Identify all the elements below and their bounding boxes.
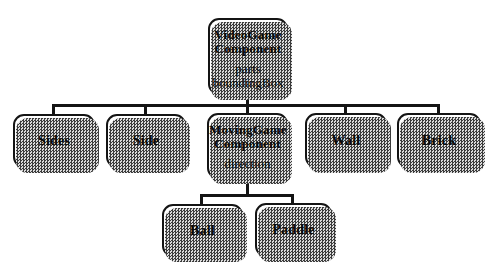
- node-title: VideoGame Component: [210, 28, 286, 55]
- uml-class-diagram: VideoGame Component parts boundingBox Si…: [0, 0, 490, 276]
- connector-row3-hline: [200, 194, 294, 197]
- node-brick: Brick: [397, 113, 481, 168]
- node-paddle: Paddle: [255, 203, 332, 257]
- attribute-line: boundingBox: [210, 76, 286, 90]
- attribute-line: parts: [210, 62, 286, 76]
- node-label: Sides: [38, 134, 70, 148]
- node-side: Side: [106, 114, 186, 168]
- node-attributes: parts boundingBox: [210, 62, 286, 90]
- node-ball: Ball: [162, 204, 243, 257]
- title-line: MovingGame: [209, 123, 286, 137]
- title-line: Component: [209, 137, 286, 151]
- node-sides: Sides: [13, 114, 95, 168]
- node-label: Side: [133, 134, 159, 148]
- title-line: VideoGame: [210, 28, 286, 42]
- node-label: Paddle: [272, 223, 314, 237]
- title-line: Component: [210, 42, 286, 56]
- attribute-line: direction: [209, 157, 286, 171]
- node-wall: Wall: [305, 113, 387, 168]
- node-attributes: direction: [209, 157, 286, 171]
- node-label: Wall: [332, 134, 361, 148]
- node-movinggame-component: MovingGame Component direction: [207, 113, 288, 179]
- node-title: MovingGame Component: [209, 123, 286, 150]
- node-videogame-component: VideoGame Component parts boundingBox: [208, 18, 288, 95]
- node-label: Ball: [190, 224, 215, 238]
- node-label: Brick: [422, 134, 456, 148]
